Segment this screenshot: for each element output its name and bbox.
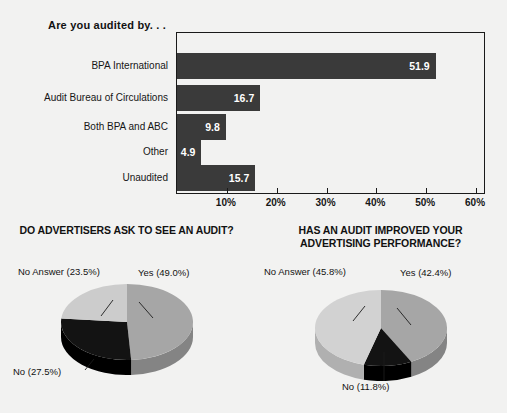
bar-value-label: 16.7 [234,85,254,111]
bar-category-label: Both BPA and ABC [84,114,177,140]
axis-tick-label: 30% [316,197,336,208]
bar-rect: 51.9 [177,53,436,79]
bar-rect: 16.7 [177,85,260,111]
bar-category-label: Audit Bureau of Circulations [44,85,177,111]
bar-row: BPA International51.9 [177,53,486,79]
axis-tick-mark [426,188,427,194]
pie-svg [315,290,447,381]
pie-slice-label: No (27.5%) [13,366,61,377]
axis-tick-label: 50% [415,197,435,208]
pie-title-line-2: ADVERTISING PERFORMANCE? [300,237,461,249]
pie-slice-label: No Answer (23.5%) [18,266,100,277]
chart-page: Are you audited by. . . BPA Internationa… [0,0,507,413]
axis-tick-mark [376,188,377,194]
bar-value-label: 15.7 [229,165,249,191]
pie-slice-no-answer [61,284,127,322]
bar-row: Both BPA and ABC9.8 [177,114,486,140]
pie-title-line-1: HAS AN AUDIT IMPROVED YOUR [299,224,463,236]
bar-rect: 15.7 [177,165,255,191]
pie-slice-label: No (11.8%) [342,381,389,392]
pie-slice-label: No Answer (45.8%) [264,266,346,277]
axis-tick-mark [227,188,228,194]
bar-chart-section: Are you audited by. . . BPA Internationa… [0,0,507,215]
pie-slice-label: Yes (49.0%) [138,267,189,278]
bar-chart-title: Are you audited by. . . [48,19,166,31]
bar-row: Other4.9 [177,139,486,165]
axis-tick-mark [476,188,477,194]
pie-title-line-1: DO ADVERTISERS ASK TO SEE AN AUDIT? [19,224,233,236]
pie-chart-title-right: HAS AN AUDIT IMPROVED YOUR ADVERTISING P… [254,224,507,250]
bar-category-label: Unaudited [122,165,177,191]
axis-tick-mark [327,188,328,194]
bar-category-label: BPA International [91,53,177,79]
bar-row: Unaudited15.7 [177,165,486,191]
bar-value-label: 4.9 [181,139,196,165]
axis-tick-label: 10% [216,197,236,208]
axis-tick-label: 40% [365,197,385,208]
pie-graphic [315,290,447,381]
pie-graphic [61,284,193,375]
bar-value-label: 51.9 [409,53,429,79]
axis-tick-label: 60% [465,197,485,208]
pie-chart-title-left: DO ADVERTISERS ASK TO SEE AN AUDIT? [0,224,253,237]
bar-rect: 4.9 [177,139,201,165]
axis-tick-mark [277,188,278,194]
pie-slice-label: Yes (42.4%) [400,267,451,278]
bar-chart-plot-area: BPA International51.9Audit Bureau of Cir… [176,32,485,194]
pie-svg [61,284,193,375]
bar-value-label: 9.8 [205,114,220,140]
axis-tick-label: 20% [266,197,286,208]
bar-category-label: Other [143,139,177,165]
pie-chart-advertisers-ask: DO ADVERTISERS ASK TO SEE AN AUDIT? Yes … [0,215,253,413]
pie-chart-audit-improved: HAS AN AUDIT IMPROVED YOUR ADVERTISING P… [254,215,507,413]
bar-rect: 9.8 [177,114,226,140]
bar-row: Audit Bureau of Circulations16.7 [177,85,486,111]
